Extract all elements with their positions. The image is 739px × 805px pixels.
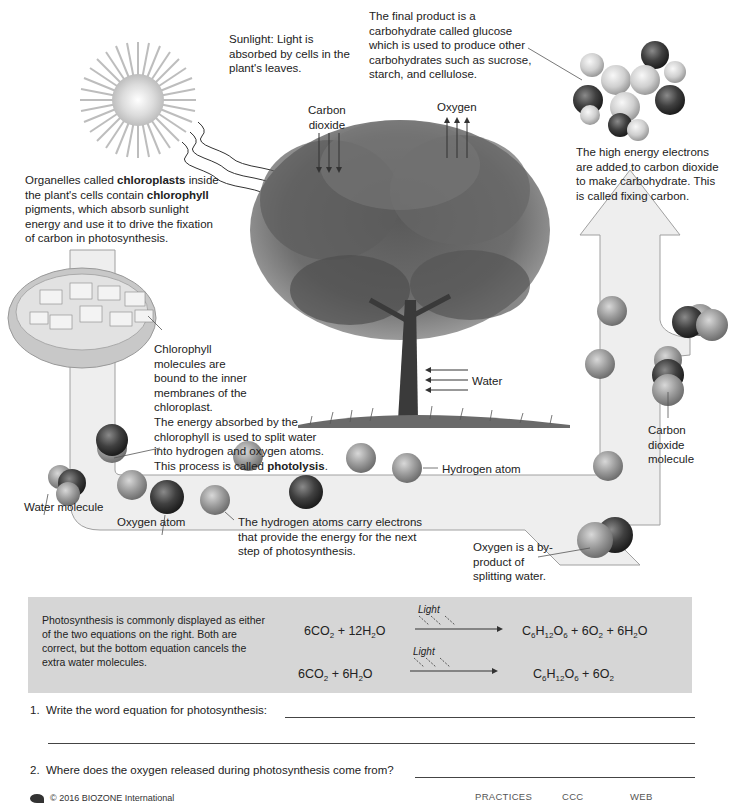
biozone-logo-icon xyxy=(30,794,44,803)
answer-line-2[interactable] xyxy=(415,777,695,778)
equation-1-products: C6H12O6 + 6O2 + 6H2O xyxy=(522,624,647,640)
oxygen-atom-label: Oxygen atom xyxy=(117,515,185,530)
carbon-dioxide-label: Carbon dioxide xyxy=(308,103,346,132)
equation-2-products: C6H12O6 + 6O2 xyxy=(533,667,614,683)
glucose-molecule-icon xyxy=(573,41,686,141)
chloroplast-icon xyxy=(8,268,156,368)
photosynthesis-diagram: Sunlight: Light is absorbed by cells in … xyxy=(0,0,739,590)
carbon-dioxide-molecule-label: Carbon dioxide molecule xyxy=(648,423,694,467)
footer-tag-web: WEB xyxy=(630,791,653,802)
hydrogen-atom-label: Hydrogen atom xyxy=(442,462,521,477)
tree-image xyxy=(250,120,570,428)
splitting-water-molecule-icon xyxy=(96,424,128,463)
oxygen-byproduct-label: Oxygen is a by-product of splitting wate… xyxy=(473,540,553,584)
question-2: 2. Where does the oxygen released during… xyxy=(30,764,394,776)
fixing-carbon-label: The high energy electrons are added to c… xyxy=(576,145,726,203)
water-label: Water xyxy=(472,374,502,389)
water-arrows-icon xyxy=(428,370,468,390)
answer-line-1b[interactable] xyxy=(48,743,695,744)
chloroplast-label: Organelles called chloroplasts inside th… xyxy=(25,173,225,246)
answer-line-1a[interactable] xyxy=(285,717,695,718)
light-arrow-2-icon xyxy=(408,656,498,678)
equation-2-reactants: 6CO2 + 6H2O xyxy=(298,667,373,683)
chlorophyll-label: Chlorophyll molecules are bound to the i… xyxy=(154,342,254,415)
diagram-artwork xyxy=(0,0,739,590)
sunlight-label: Sunlight: Light is absorbed by cells in … xyxy=(229,32,354,76)
footer-copyright: © 2016 BIOZONE International xyxy=(30,793,174,803)
photolysis-label: The energy absorbed by the chlorophyll i… xyxy=(154,415,334,473)
equation-1-reactants: 6CO2 + 12H2O xyxy=(304,624,386,640)
glucose-label: The final product is a carbohydrate call… xyxy=(369,9,544,82)
question-1: 1. Write the word equation for photosynt… xyxy=(30,704,267,716)
footer-tag-ccc: CCC xyxy=(562,791,583,802)
hydrogen-carry-label: The hydrogen atoms carry electrons that … xyxy=(238,515,438,559)
light-arrow-1-icon xyxy=(413,614,503,636)
footer-tag-practices: PRACTICES xyxy=(475,791,532,802)
equation-box: Photosynthesis is commonly displayed as … xyxy=(28,597,692,693)
oxygen-label: Oxygen xyxy=(437,100,477,115)
sun-icon xyxy=(80,42,196,158)
water-molecule-label: Water molecule xyxy=(24,500,103,515)
equation-description: Photosynthesis is commonly displayed as … xyxy=(42,613,272,669)
